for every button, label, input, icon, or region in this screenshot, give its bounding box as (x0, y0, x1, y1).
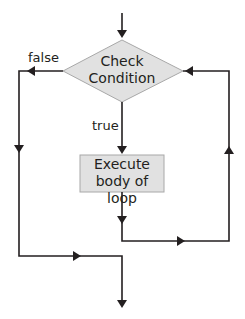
condition-text: Check Condition (82, 53, 162, 87)
condition-line2: Condition (82, 70, 162, 87)
arrowhead-down-icon (14, 145, 24, 153)
arrowhead-right-icon (73, 251, 81, 261)
true-label: true (92, 118, 119, 133)
body-line2: body of loop (80, 173, 164, 207)
condition-line1: Check (82, 53, 162, 70)
arrowhead-left-icon (185, 66, 193, 76)
arrowhead-down-icon (117, 30, 127, 38)
false-label: false (28, 50, 59, 65)
arrowhead-right-icon (177, 236, 185, 246)
arrowhead-down-icon (117, 216, 127, 224)
arrowhead-down-icon (117, 300, 127, 308)
arrowhead-left-icon (27, 66, 35, 76)
entry-edge (117, 13, 127, 38)
body-line1: Execute (80, 156, 164, 173)
arrowhead-up-icon (224, 146, 234, 154)
body-text: Execute body of loop (80, 156, 164, 207)
arrowhead-down-icon (117, 146, 127, 154)
